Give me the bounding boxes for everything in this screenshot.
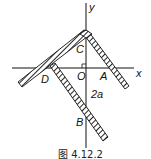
point-b-label: B bbox=[76, 117, 83, 128]
figure-caption: 图 4.12.2 bbox=[58, 150, 103, 159]
point-o-label: O bbox=[77, 71, 86, 82]
y-axis-label: y bbox=[89, 2, 95, 13]
x-axis-label: x bbox=[136, 68, 142, 79]
diagram-canvas bbox=[0, 0, 151, 159]
point-a-label: A bbox=[100, 71, 107, 82]
point-c-label: C bbox=[76, 44, 84, 55]
right-angle-mark bbox=[82, 64, 86, 68]
dimension-2a-label: 2a bbox=[91, 89, 103, 100]
point-d-label: D bbox=[41, 74, 49, 85]
